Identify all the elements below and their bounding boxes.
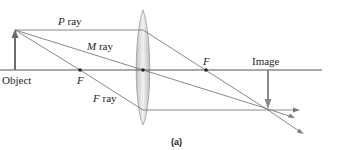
image-arrowhead-icon bbox=[265, 99, 272, 109]
focal-left-label: F bbox=[76, 74, 84, 86]
m-ray-arrowhead-icon bbox=[288, 114, 295, 119]
p-ray-arrowhead-icon bbox=[297, 129, 304, 135]
image-label: Image bbox=[252, 55, 280, 67]
focal-point-right bbox=[204, 68, 208, 72]
thin-lens-ray-diagram: P ray M ray F ray Object F F Image (a) bbox=[0, 0, 351, 150]
m-ray bbox=[15, 30, 292, 117]
f-ray-arrowhead-icon bbox=[293, 108, 300, 113]
focal-point-left bbox=[78, 68, 82, 72]
m-ray-label: M ray bbox=[86, 40, 113, 52]
p-ray bbox=[15, 30, 302, 133]
converging-lens bbox=[136, 10, 150, 125]
focal-right-label: F bbox=[202, 55, 210, 67]
figure-caption: (a) bbox=[171, 137, 182, 147]
lens-center-point bbox=[141, 68, 145, 72]
f-ray-label: F ray bbox=[92, 92, 117, 104]
object-label: Object bbox=[2, 74, 31, 86]
p-ray-label: P ray bbox=[57, 15, 82, 27]
